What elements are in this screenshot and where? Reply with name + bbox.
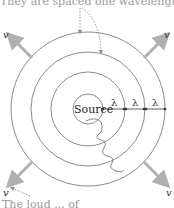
velocity-label-tr: v (164, 29, 170, 40)
velocity-label-bl: v (3, 187, 9, 198)
velocity-label-tl: v (3, 29, 9, 40)
wavefront-diagram: v v v v λ λ λ Source (0, 0, 174, 208)
velocity-label-br: v (166, 187, 172, 198)
arrow-down-left (12, 162, 32, 182)
caption-bottom: The loud ... of (2, 198, 174, 208)
wavelength-label-3: λ (152, 97, 159, 108)
source-label: Source (74, 103, 113, 116)
arrow-up-left (12, 38, 32, 58)
arrow-up-right (144, 38, 164, 58)
wavelength-label-2: λ (132, 97, 139, 108)
arrow-down-right (144, 162, 164, 182)
